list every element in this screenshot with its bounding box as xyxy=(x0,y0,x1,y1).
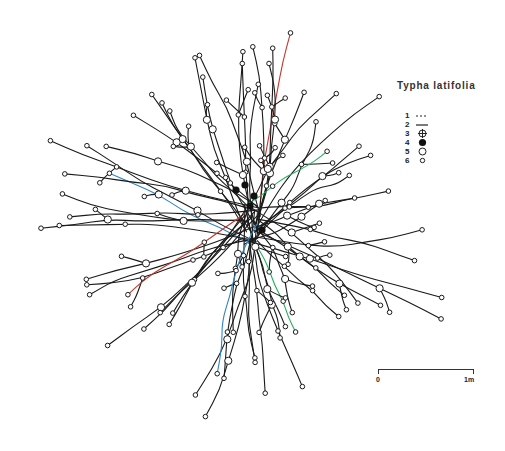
legend-item-4: 4 xyxy=(405,138,484,147)
scale-end-label: 1m xyxy=(464,376,474,383)
solid-line-icon xyxy=(415,120,429,129)
legend-item-2: 2 xyxy=(405,120,484,129)
legend-item-5: 5 xyxy=(405,147,484,156)
large-open-circle-icon xyxy=(415,147,429,156)
legend-item-6: 6 xyxy=(405,156,484,165)
species-title: Typha latifolia xyxy=(397,80,476,91)
legend-item-1: 1 xyxy=(405,111,484,120)
legend: Typha latifolia 1 2 3 4 5 6 xyxy=(405,80,484,165)
small-open-circle-icon xyxy=(415,156,429,165)
dashed-line-icon xyxy=(415,111,429,120)
scale-start-label: 0 xyxy=(376,376,380,383)
filled-circle-icon xyxy=(415,138,429,147)
crossed-circle-icon xyxy=(415,129,429,138)
scale-bar: 0 1m xyxy=(378,366,472,386)
legend-item-3: 3 xyxy=(405,129,484,138)
scale-bar-line xyxy=(378,369,474,374)
